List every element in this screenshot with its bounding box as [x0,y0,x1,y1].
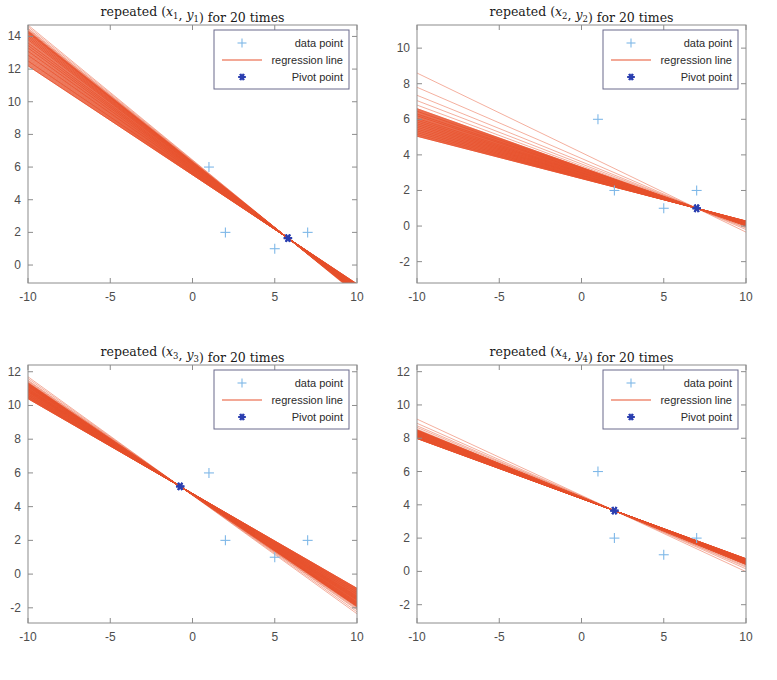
data-point-marker [593,114,603,124]
y-tick-label: -2 [399,598,410,612]
subplot-4: repeated (x4, y4) for 20 times-10-50510-… [389,340,777,680]
subplot-svg: repeated (x3, y3) for 20 times-10-50510-… [0,340,388,680]
y-tick-label: 6 [403,465,410,479]
y-tick-label: 10 [8,398,22,412]
x-tick-label: 5 [660,630,667,644]
y-tick-label: 0 [403,564,410,578]
y-tick-label: 0 [14,258,21,272]
regression-line [417,419,746,572]
y-tick-label: 8 [14,127,21,141]
subplot-title: repeated (x4, y4) for 20 times [490,344,674,365]
pivot-point-marker [692,205,700,212]
svg-text:repeated (x3, y3) for 20 times: repeated (x3, y3) for 20 times [101,344,285,365]
y-tick-label: 10 [8,95,22,109]
subplot-svg: repeated (x1, y1) for 20 times-10-505100… [0,0,388,340]
subplot-title: repeated (x1, y1) for 20 times [101,4,285,25]
y-tick-label: 10 [397,41,411,55]
regression-line [417,430,746,565]
x-tick-label: 0 [578,290,585,304]
y-tick-label: 6 [14,466,21,480]
legend-label: data point [295,37,343,49]
y-tick-label: 6 [14,160,21,174]
legend-label: regression line [660,394,732,406]
legend[interactable]: data pointregression linePivot point [214,30,349,89]
legend[interactable]: data pointregression linePivot point [603,370,738,429]
data-point-marker [609,533,619,543]
x-tick-label: 10 [739,290,753,304]
x-tick-label: 0 [578,630,585,644]
x-tick-label: -10 [408,290,426,304]
y-tick-label: 4 [403,498,410,512]
x-tick-label: -5 [105,290,116,304]
subplot-2: repeated (x2, y2) for 20 times-10-50510-… [389,0,777,340]
legend-label: Pivot point [681,411,732,423]
y-tick-label: 12 [397,365,411,379]
y-tick-label: 6 [403,112,410,126]
x-tick-label: 0 [189,630,196,644]
data-point-marker [270,244,280,254]
subplot-title: repeated (x2, y2) for 20 times [490,4,674,25]
data-point-marker [204,468,214,478]
legend-label: data point [684,37,732,49]
y-tick-label: 8 [14,432,21,446]
y-tick-label: 2 [14,225,21,239]
y-tick-label: 2 [403,183,410,197]
svg-text:repeated (x2, y2) for 20 times: repeated (x2, y2) for 20 times [490,4,674,25]
x-tick-label: -5 [494,630,505,644]
x-tick-label: 10 [350,290,364,304]
svg-text:repeated (x4, y4) for 20 times: repeated (x4, y4) for 20 times [490,344,674,365]
data-point-marker [220,535,230,545]
y-tick-label: 4 [403,148,410,162]
legend-label: regression line [660,54,732,66]
x-tick-label: -10 [408,630,426,644]
legend-label: regression line [271,54,343,66]
subplot-title: repeated (x3, y3) for 20 times [101,344,285,365]
y-tick-label: 10 [397,398,411,412]
x-tick-label: 0 [189,290,196,304]
legend-label: Pivot point [292,411,343,423]
legend-label: Pivot point [292,71,343,83]
y-tick-label: 2 [403,531,410,545]
legend-label: data point [295,377,343,389]
data-point-marker [303,535,313,545]
y-tick-label: 14 [8,29,22,43]
y-tick-label: 8 [403,77,410,91]
legend-label: data point [684,377,732,389]
legend-label: Pivot point [681,71,732,83]
data-point-group [593,114,702,213]
y-tick-label: 4 [14,193,21,207]
data-point-marker [593,467,603,477]
subplot-1: repeated (x1, y1) for 20 times-10-505100… [0,0,388,340]
data-point-marker [659,203,669,213]
x-tick-label: 5 [271,630,278,644]
x-tick-label: -5 [494,290,505,304]
y-tick-label: 12 [8,62,22,76]
data-point-group [204,162,313,254]
y-tick-label: 8 [403,431,410,445]
y-tick-label: -2 [10,601,21,615]
data-point-marker [220,227,230,237]
x-tick-label: 5 [271,290,278,304]
regression-line-bundle [417,419,746,572]
figure-canvas: repeated (x1, y1) for 20 times-10-505100… [0,0,777,680]
data-point-marker [303,227,313,237]
x-tick-label: -5 [105,630,116,644]
subplot-svg: repeated (x2, y2) for 20 times-10-50510-… [389,0,777,340]
x-tick-label: -10 [19,630,37,644]
subplot-svg: repeated (x4, y4) for 20 times-10-50510-… [389,340,777,680]
legend[interactable]: data pointregression linePivot point [603,30,738,89]
y-tick-label: 0 [14,567,21,581]
data-point-marker [659,550,669,560]
legend-label: regression line [271,394,343,406]
x-tick-label: 10 [350,630,364,644]
data-point-marker [692,185,702,195]
x-tick-label: 10 [739,630,753,644]
legend[interactable]: data pointregression linePivot point [214,370,349,429]
x-tick-label: 5 [660,290,667,304]
x-tick-label: -10 [19,290,37,304]
svg-text:repeated (x1, y1) for 20 times: repeated (x1, y1) for 20 times [101,4,285,25]
y-tick-label: -2 [399,255,410,269]
y-tick-label: 2 [14,533,21,547]
y-tick-label: 4 [14,500,21,514]
y-tick-label: 12 [8,365,22,379]
